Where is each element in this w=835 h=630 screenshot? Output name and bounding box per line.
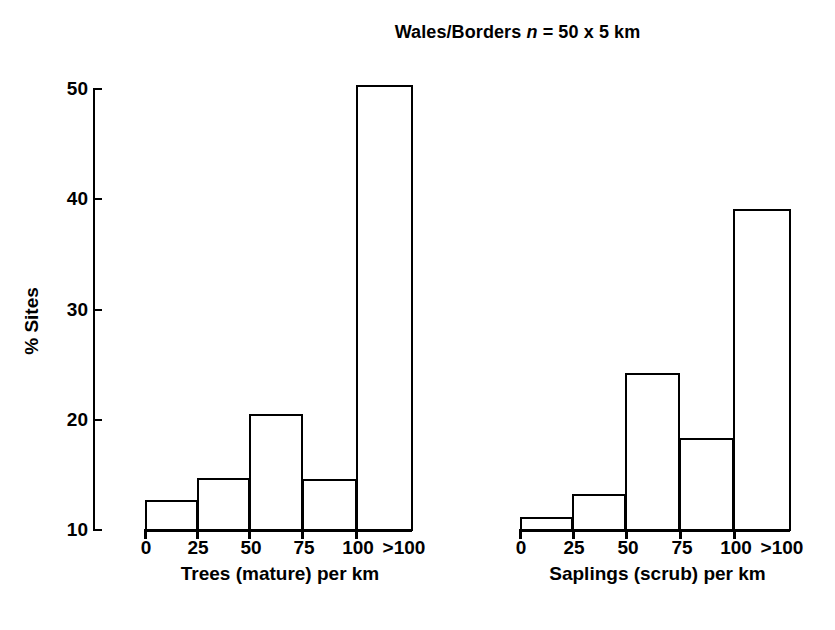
y-axis-label-30: 30 (42, 299, 88, 321)
bar-trees-75-100 (302, 479, 357, 531)
y-axis-label-10: 10 (42, 519, 88, 541)
y-axis-title: % Sites (21, 261, 43, 381)
x-axis-label-75-right: 75 (671, 537, 692, 559)
bar-saplings-0-25 (520, 517, 573, 531)
x-axis-label-100: 100 (342, 537, 374, 559)
x-axis-label-over-100-right: >100 (761, 537, 804, 559)
x-axis-label-50: 50 (240, 537, 261, 559)
x-axis-label-0: 0 (141, 537, 152, 559)
y-axis-label-40: 40 (42, 188, 88, 210)
bar-trees-over-100 (356, 85, 413, 531)
y-axis-label-20: 20 (42, 409, 88, 431)
y-axis-tick-50 (93, 88, 102, 90)
bar-saplings-75-100 (679, 438, 734, 531)
x-axis-label-25-right: 25 (563, 537, 584, 559)
bar-trees-0-25 (145, 500, 198, 531)
bar-trees-50-75 (249, 414, 303, 531)
chart-panel-trees: 50 40 30 20 10 % Sites 0 25 50 75 100 >1… (0, 0, 440, 630)
y-axis-tick-20 (93, 419, 102, 421)
x-axis-label-over-100: >100 (383, 537, 426, 559)
y-axis-tick-40 (93, 198, 102, 200)
chart-panel-saplings: 0 25 50 75 100 >100 Saplings (scrub) per… (440, 0, 835, 630)
x-axis-label-100-right: 100 (720, 537, 752, 559)
bar-trees-25-50 (197, 478, 250, 531)
bar-saplings-50-75 (625, 373, 680, 531)
x-axis-title: Trees (mature) per km (140, 563, 420, 585)
y-axis-tick-10 (93, 529, 102, 531)
bar-saplings-over-100 (733, 209, 791, 531)
y-axis-tick-30 (93, 309, 102, 311)
x-axis-label-75: 75 (293, 537, 314, 559)
y-axis-label-50: 50 (42, 78, 88, 100)
x-axis-title-right: Saplings (scrub) per km (515, 563, 800, 585)
x-axis-label-25: 25 (187, 537, 208, 559)
figure-canvas: Wales/Borders n = 50 x 5 km 50 40 30 20 … (0, 0, 835, 630)
x-axis-label-0-right: 0 (516, 537, 527, 559)
x-axis-label-50-right: 50 (617, 537, 638, 559)
bar-saplings-25-50 (572, 494, 626, 531)
